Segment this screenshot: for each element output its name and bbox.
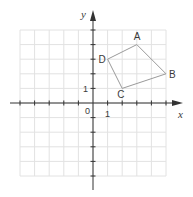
y-unit-label: 1 — [83, 84, 88, 94]
origin-label: 0 — [85, 106, 90, 116]
x-unit-label: 1 — [105, 109, 110, 119]
axes — [10, 10, 183, 190]
vertex-label-c: C — [117, 89, 124, 100]
x-axis-label: x — [177, 108, 183, 120]
vertex-label-b: B — [169, 69, 176, 80]
x-axis-arrow-icon — [172, 100, 183, 106]
y-axis-label: y — [80, 8, 86, 20]
coordinate-plane: ABCD y x 0 1 1 — [0, 0, 193, 197]
y-axis-arrow-icon — [90, 10, 96, 21]
vertex-label-d: D — [99, 54, 106, 65]
vertex-label-a: A — [134, 31, 141, 42]
